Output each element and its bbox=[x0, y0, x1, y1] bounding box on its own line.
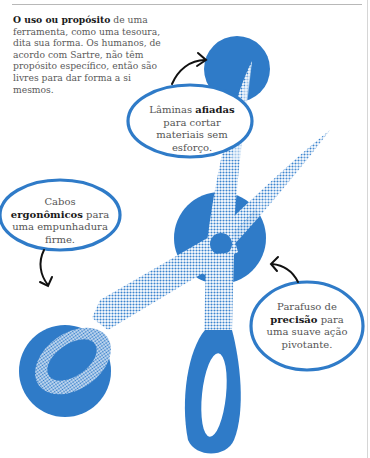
pivot-screw bbox=[210, 233, 232, 255]
shank-bottom bbox=[204, 252, 234, 338]
callout-blades-pre: Lâminas bbox=[149, 104, 195, 115]
arrow-to-screw-icon bbox=[271, 257, 298, 282]
callout-blades: Lâminas afiadas para cortar materiais se… bbox=[140, 104, 244, 154]
arrow-to-handle-icon bbox=[40, 250, 52, 286]
callout-blades-post: para cortar materiais sem esforço. bbox=[156, 117, 227, 153]
callout-handles-pre: Cabos bbox=[44, 196, 75, 207]
arrow-to-blade-tip-icon bbox=[172, 53, 206, 84]
callout-screw-pre: Parafuso de bbox=[277, 301, 337, 312]
callout-blades-bold: afiadas bbox=[195, 104, 234, 115]
callout-screw: Parafuso de precisão para uma suave ação… bbox=[262, 301, 352, 351]
callout-handles-bold: ergonômicos bbox=[11, 209, 83, 220]
callout-handles: Cabos ergonômicos para uma empunhadura f… bbox=[8, 196, 112, 246]
callout-screw-bold: precisão bbox=[270, 314, 317, 325]
